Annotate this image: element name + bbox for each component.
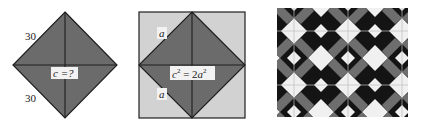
square-diamond-figure: a a c2 = 2a2: [135, 0, 275, 126]
tile-photo-figure: [275, 0, 421, 126]
equation-equals: = 2: [180, 68, 197, 80]
lower-side-label: a: [159, 88, 165, 100]
upper-side-label: 30: [25, 30, 37, 42]
lower-side-label: 30: [25, 92, 37, 104]
hypotenuse-label: c =?: [53, 67, 74, 79]
upper-side-label: a: [159, 27, 165, 39]
tile-pattern: [277, 8, 408, 117]
diamond-svg: 30 30 c =?: [0, 0, 135, 126]
equation-rhs-exponent: 2: [203, 67, 207, 75]
square-diamond-svg: a a c2 = 2a2: [135, 0, 275, 126]
tile-photo-svg: [275, 0, 421, 126]
diamond-figure: 30 30 c =?: [0, 0, 135, 126]
